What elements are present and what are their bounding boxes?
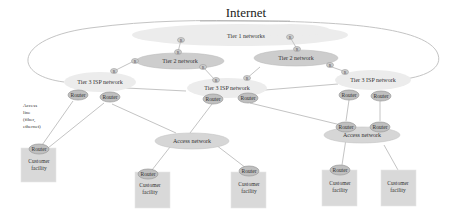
svg-text:R: R <box>215 78 218 83</box>
svg-text:facility: facility <box>241 188 257 194</box>
access-line-label: Access line (fiber, ethernet) <box>23 103 41 129</box>
router-r-icon: R <box>294 47 301 52</box>
tier2-network-left: Tier 2 network <box>136 53 224 69</box>
svg-text:Router: Router <box>374 93 389 99</box>
router-icon: Router <box>370 122 390 132</box>
svg-text:Tier 3 ISP network: Tier 3 ISP network <box>350 77 395 83</box>
router-icon: Router <box>238 93 258 103</box>
svg-text:R: R <box>180 38 183 43</box>
svg-text:R: R <box>296 47 299 52</box>
router-r-icon: R <box>342 70 349 75</box>
tier3-network-left: Tier 3 ISP network <box>64 72 136 92</box>
svg-text:facility: facility <box>390 187 406 193</box>
svg-text:facility: facility <box>142 189 158 195</box>
svg-text:Router: Router <box>342 92 357 98</box>
svg-text:R: R <box>134 59 137 64</box>
svg-text:R: R <box>246 76 249 81</box>
tier1-cloud: Tier 1 networks <box>132 24 348 46</box>
svg-text:line: line <box>23 110 31 115</box>
svg-text:facility: facility <box>332 187 348 193</box>
tier1-label: Tier 1 networks <box>227 33 265 39</box>
customer-facility-3: Router Customer facility <box>231 166 266 208</box>
svg-text:Tier 2 network: Tier 2 network <box>162 58 197 64</box>
svg-text:Router: Router <box>141 171 156 177</box>
internet-title: Internet <box>226 5 267 20</box>
tier2-network-right: Tier 2 network <box>254 50 338 66</box>
svg-text:Router: Router <box>32 146 47 152</box>
svg-text:Customer: Customer <box>387 180 409 186</box>
svg-text:R: R <box>202 65 205 70</box>
internet-hierarchy-diagram: Internet Tier 1 networks <box>0 0 457 215</box>
svg-text:Access: Access <box>23 103 37 108</box>
svg-text:Router: Router <box>103 94 118 100</box>
svg-text:R: R <box>177 50 180 55</box>
router-icon: Router <box>336 122 356 132</box>
svg-text:Router: Router <box>242 168 257 174</box>
svg-text:Customer: Customer <box>238 181 260 187</box>
svg-text:R: R <box>329 63 332 68</box>
svg-text:R: R <box>289 35 292 40</box>
customer-facility-4: Router Customer facility <box>322 165 357 206</box>
router-r-icon: R <box>178 38 185 43</box>
customer-facility-5: Customer facility <box>381 170 416 206</box>
svg-text:(fiber,: (fiber, <box>23 117 35 123</box>
svg-text:Router: Router <box>333 167 348 173</box>
svg-text:Tier 3 ISP network: Tier 3 ISP network <box>77 79 122 85</box>
router-icon: Router <box>100 92 120 102</box>
router-r-icon: R <box>287 35 294 40</box>
router-icon: Router <box>68 90 88 100</box>
router-icon: Router <box>203 94 223 104</box>
router-r-icon: R <box>132 59 139 64</box>
svg-text:Router: Router <box>241 95 256 101</box>
svg-text:Customer: Customer <box>139 182 161 188</box>
svg-text:Access network: Access network <box>343 132 381 138</box>
router-icon: Router <box>339 90 359 100</box>
router-r-icon: R <box>213 78 220 83</box>
router-r-icon: R <box>244 76 251 81</box>
svg-text:facility: facility <box>31 165 47 171</box>
svg-text:R: R <box>344 70 347 75</box>
svg-text:Customer: Customer <box>28 158 50 164</box>
customer-facility-2: Router Customer facility <box>135 169 170 208</box>
svg-text:R: R <box>113 69 116 74</box>
svg-text:Router: Router <box>71 92 86 98</box>
customer-facility-1: Router Customer facility <box>21 144 56 182</box>
svg-text:Tier 3 ISP network: Tier 3 ISP network <box>204 85 249 91</box>
router-r-icon: R <box>175 50 182 55</box>
svg-text:Tier 2 network: Tier 2 network <box>278 55 313 61</box>
access-network-left: Access network <box>155 133 229 149</box>
svg-text:Router: Router <box>373 124 388 130</box>
svg-text:Router: Router <box>339 124 354 130</box>
router-r-icon: R <box>111 69 118 74</box>
svg-text:Customer: Customer <box>329 180 351 186</box>
svg-text:Router: Router <box>206 96 221 102</box>
router-r-icon: R <box>327 63 334 68</box>
svg-text:ethernet): ethernet) <box>23 124 41 129</box>
svg-text:Access network: Access network <box>173 138 211 144</box>
router-icon: Router <box>371 91 391 101</box>
router-r-icon: R <box>200 65 207 70</box>
